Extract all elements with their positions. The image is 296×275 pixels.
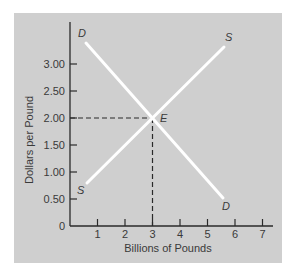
y-tick-label: 0.50	[44, 193, 65, 205]
y-tick-label: 0	[59, 220, 65, 232]
y-tick-label: 1.50	[44, 139, 65, 151]
y-axis-title: Dollars per Pound	[23, 96, 35, 184]
x-tick-label: 6	[232, 228, 238, 240]
supply-label-bottom: S	[77, 184, 85, 196]
equilibrium-label: E	[160, 112, 168, 124]
equilibrium-guides	[70, 118, 153, 226]
y-tick-label: 3.00	[44, 58, 65, 70]
y-tick-label: 2.50	[44, 85, 65, 97]
y-tick-label: 1.00	[44, 166, 65, 178]
supply-demand-chart: 0 0.50 1.00 1.50 2.00 2.50 3.00 1 2 3 4 …	[0, 0, 296, 275]
x-tick-label: 1	[94, 228, 100, 240]
supply-label-top: S	[225, 31, 233, 43]
x-ticks	[98, 219, 263, 226]
x-tick-labels: 1 2 3 4 5 6 7	[94, 228, 265, 240]
x-axis-title: Billions of Pounds	[124, 242, 212, 254]
demand-label-bottom: D	[222, 200, 230, 212]
x-tick-label: 4	[177, 228, 183, 240]
y-tick-labels: 0 0.50 1.00 1.50 2.00 2.50 3.00	[44, 58, 65, 232]
axes	[70, 22, 273, 226]
y-ticks	[70, 64, 77, 199]
x-tick-label: 2	[122, 228, 128, 240]
y-tick-label: 2.00	[44, 112, 65, 124]
x-tick-label: 5	[204, 228, 210, 240]
x-tick-label: 3	[149, 228, 155, 240]
demand-curve	[86, 43, 223, 198]
demand-label-top: D	[78, 27, 86, 39]
x-tick-label: 7	[259, 228, 265, 240]
